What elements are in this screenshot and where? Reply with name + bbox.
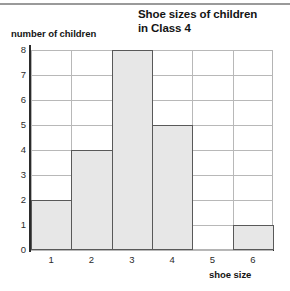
y-tick-label-3: 3 [4,170,26,180]
y-tick-label-0: 0 [4,245,26,255]
chart-title-line-1: Shoe sizes of children [138,8,257,20]
y-tick-label-6: 6 [4,95,26,105]
y-axis-title: number of children [11,28,96,39]
chart-title-line-2: in Class 4 [138,22,191,34]
bar-1 [31,200,72,250]
y-tick-label-2: 2 [4,195,26,205]
bar-4 [152,125,193,250]
plot-area [31,50,273,250]
y-tick-label-1: 1 [4,220,26,230]
x-axis-title: shoe size [209,269,251,280]
x-tick-label-1: 1 [31,254,71,265]
x-tick-label-5: 5 [193,254,233,265]
bar-2 [71,150,113,250]
y-tick-label-8: 8 [4,45,26,55]
x-tick-label-2: 2 [72,254,112,265]
y-tick-label-7: 7 [4,70,26,80]
bar-series [31,50,273,250]
x-tick-label-3: 3 [112,254,152,265]
chart-title: Shoe sizes of children in Class 4 [138,8,288,35]
x-tick-label-4: 4 [152,254,192,265]
y-tick-label-4: 4 [4,145,26,155]
bar-6 [233,225,274,250]
bar-3 [112,50,153,250]
page-top-rule [0,3,290,5]
chart-page: Shoe sizes of children in Class 4 number… [0,0,290,291]
y-tick-label-5: 5 [4,120,26,130]
x-tick-label-6: 6 [233,254,273,265]
